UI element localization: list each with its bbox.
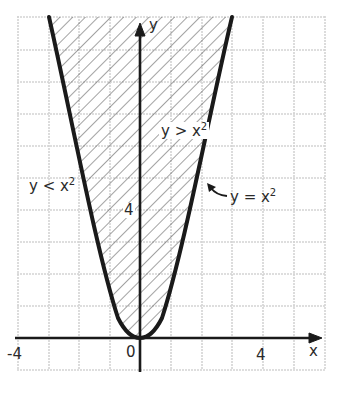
x-tick-0: 0 [126,345,136,360]
x-axis-label: x [309,344,318,359]
y-tick-4: 4 [123,203,135,218]
region-below-label: y < x2 [29,177,75,194]
curve-pointer-arrow [207,183,227,196]
y-axis-label: y [149,18,158,33]
x-tick-neg4: -4 [7,347,22,362]
chart-plot [0,0,337,396]
x-tick-4: 4 [256,348,266,363]
region-above-label: y > x2 [159,122,209,139]
curve-equation-label: y = x2 [230,188,276,205]
